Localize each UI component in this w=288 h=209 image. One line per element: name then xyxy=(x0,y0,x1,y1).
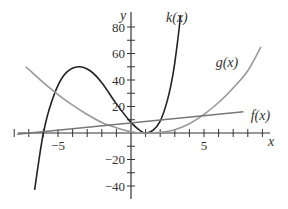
y-axis-label: y xyxy=(118,8,127,23)
series-label-kx: k(x) xyxy=(166,10,188,26)
y-tick-label: 20 xyxy=(112,99,125,114)
x-tick-label: 5 xyxy=(201,138,208,153)
y-tick-label: 60 xyxy=(112,46,125,61)
y-tick-label: −40 xyxy=(105,179,125,194)
x-axis-label: x xyxy=(267,134,275,149)
axes xyxy=(14,12,270,199)
labels: −5580604020−20−40xyk(x)g(x)f(x) xyxy=(51,8,275,194)
x-tick-label: −5 xyxy=(51,138,65,153)
curves xyxy=(17,15,261,190)
series-label-gx: g(x) xyxy=(216,55,239,71)
series-label-fx: f(x) xyxy=(251,108,271,124)
function-plot: −5580604020−20−40xyk(x)g(x)f(x) xyxy=(0,0,288,209)
y-tick-label: −20 xyxy=(105,152,125,167)
y-tick-label: 40 xyxy=(112,73,125,88)
